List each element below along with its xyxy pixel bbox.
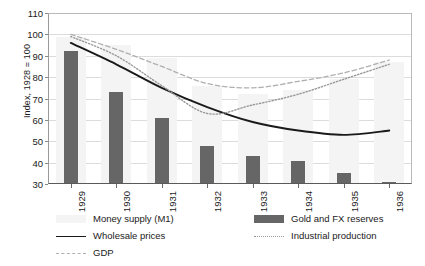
plot-frame — [48, 13, 412, 184]
plot-area: 30405060708090100110 1929193019311932193… — [48, 13, 412, 184]
x-axis-tick-mark — [116, 184, 117, 188]
legend-item-wholesale-prices[interactable]: Wholesale prices — [56, 231, 165, 241]
x-axis-tick-mark — [389, 184, 390, 188]
y-axis-tick-mark — [45, 184, 48, 185]
x-axis-tick-mark — [207, 184, 208, 188]
x-axis-tick-label: 1934 — [303, 191, 314, 212]
x-axis-tick-label: 1935 — [349, 191, 360, 212]
x-axis-tick-label: 1930 — [121, 191, 132, 212]
y-axis-tick-label: 90 — [32, 50, 43, 61]
x-axis-tick-label: 1936 — [394, 191, 405, 212]
x-axis-tick-label: 1931 — [167, 191, 178, 212]
legend-label: Gold and FX reserves — [291, 214, 383, 224]
legend-swatch-bar — [56, 215, 86, 223]
legend-item-gold-fx-reserves[interactable]: Gold and FX reserves — [254, 214, 383, 224]
y-axis-tick-label: 100 — [27, 29, 43, 40]
x-axis-tick-mark — [344, 184, 345, 188]
y-axis-tick-label: 50 — [32, 136, 43, 147]
legend-label: Wholesale prices — [93, 231, 165, 241]
x-axis-tick-mark — [298, 184, 299, 188]
legend-item-industrial-production[interactable]: Industrial production — [254, 231, 377, 241]
legend-label: Money supply (M1) — [93, 214, 174, 224]
x-axis-tick-label: 1932 — [212, 191, 223, 212]
y-axis-tick-label: 70 — [32, 93, 43, 104]
legend-swatch-line — [254, 231, 284, 240]
x-axis-tick-label: 1933 — [258, 191, 269, 212]
y-axis-tick-label: 80 — [32, 72, 43, 83]
x-axis-tick-label: 1929 — [76, 191, 87, 212]
y-axis-tick-label: 60 — [32, 114, 43, 125]
legend-swatch-bar — [254, 215, 284, 223]
legend-item-gdp[interactable]: GDP — [56, 248, 114, 258]
chart-legend: Money supply (M1)Gold and FX reservesWho… — [56, 214, 414, 264]
x-axis-tick-mark — [253, 184, 254, 188]
legend-swatch-line — [56, 231, 86, 240]
legend-label: GDP — [93, 248, 114, 258]
y-axis-tick-label: 40 — [32, 157, 43, 168]
y-axis-tick-label: 30 — [32, 179, 43, 190]
legend-item-money-supply[interactable]: Money supply (M1) — [56, 214, 174, 224]
legend-swatch-line — [56, 248, 86, 257]
y-axis-title: Index, 1928 = 100 — [22, 0, 32, 166]
x-axis-tick-mark — [162, 184, 163, 188]
chart-figure: Index, 1928 = 100 30405060708090100110 1… — [0, 0, 425, 266]
y-axis-tick-label: 110 — [28, 8, 43, 19]
x-axis-tick-mark — [71, 184, 72, 188]
legend-label: Industrial production — [291, 231, 377, 241]
